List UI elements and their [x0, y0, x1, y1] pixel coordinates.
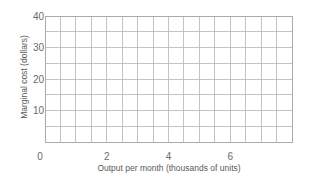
x-tick-label: 4	[166, 151, 172, 162]
y-tick-label: 20	[33, 74, 45, 85]
x-tick-label: 6	[227, 151, 233, 162]
x-axis-title: Output per month (thousands of units)	[97, 163, 240, 173]
y-tick-label: 30	[33, 42, 45, 53]
x-axis-tick-labels: 0246	[37, 151, 233, 162]
marginal-cost-chart: 0246 10203040 Output per month (thousand…	[0, 0, 309, 179]
x-tick-label: 0	[37, 151, 43, 162]
y-axis-tick-labels: 10203040	[33, 11, 45, 117]
plot-grid	[45, 16, 292, 142]
y-tick-label: 10	[33, 105, 45, 116]
y-axis-title: Marginal cost (dollars)	[19, 35, 29, 119]
y-tick-label: 40	[33, 11, 45, 22]
x-tick-label: 2	[104, 151, 110, 162]
